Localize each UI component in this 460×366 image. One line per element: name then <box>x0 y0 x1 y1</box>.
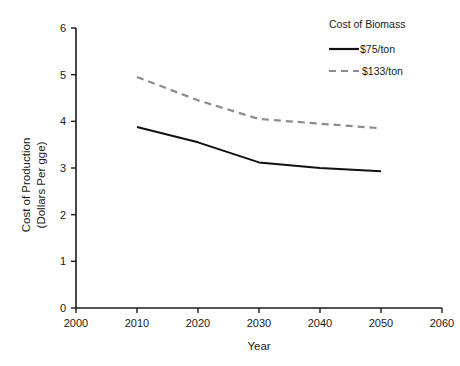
legend-item-solid[interactable]: $75/ton <box>329 43 395 55</box>
x-axis-title: Year <box>247 340 270 352</box>
x-tick-label: 2030 <box>247 317 271 329</box>
x-tick-label: 2000 <box>64 317 88 329</box>
line-chart: 0123456 2000201020202030204020502060 Cos… <box>0 0 460 366</box>
y-tick-label: 3 <box>60 162 66 174</box>
y-axis-title-line2: (Dollars Per gge) <box>35 141 47 228</box>
y-tick-label: 1 <box>60 255 66 267</box>
series-line-2 <box>137 77 381 128</box>
y-axis-title: Cost of Production (Dollars Per gge) <box>20 138 47 233</box>
x-axis-tick-labels: 2000201020202030204020502060 <box>64 317 454 329</box>
y-axis-tick-labels: 0123456 <box>60 22 66 314</box>
y-tick-label: 0 <box>60 302 66 314</box>
legend-label-solid: $75/ton <box>360 43 395 55</box>
legend-title: Cost of Biomass <box>329 18 405 30</box>
series-line-1 <box>137 127 381 171</box>
y-tick-label: 6 <box>60 22 66 34</box>
series-lines <box>137 77 381 171</box>
x-tick-label: 2060 <box>430 317 454 329</box>
y-tick-label: 5 <box>60 69 66 81</box>
x-tick-label: 2040 <box>308 317 332 329</box>
y-tick-label: 4 <box>60 115 66 127</box>
y-tick-label: 2 <box>60 209 66 221</box>
legend-label-dashed: $133/ton <box>362 65 403 77</box>
legend: Cost of Biomass $75/ton $133/ton <box>329 18 405 77</box>
x-tick-label: 2010 <box>125 317 149 329</box>
x-tick-label: 2020 <box>186 317 210 329</box>
legend-item-dashed[interactable]: $133/ton <box>329 65 403 77</box>
chart-canvas: 0123456 2000201020202030204020502060 Cos… <box>0 0 460 366</box>
y-axis-title-line1: Cost of Production <box>20 138 32 233</box>
x-tick-label: 2050 <box>369 317 393 329</box>
